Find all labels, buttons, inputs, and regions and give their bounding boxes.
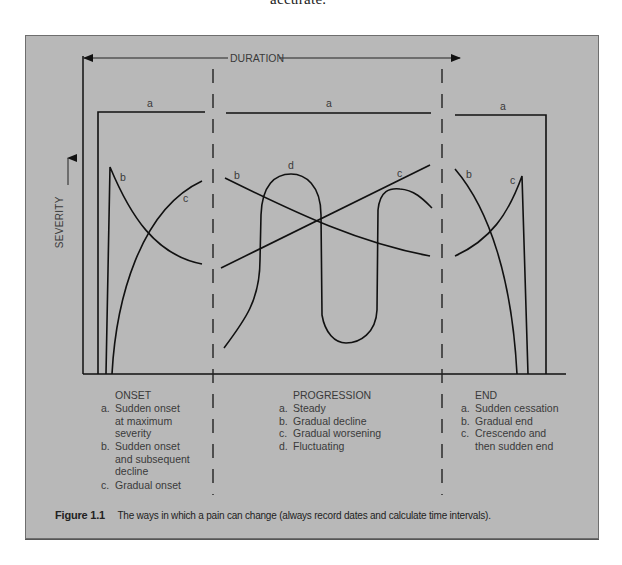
progression-label-b: b (234, 169, 240, 182)
progression-item-d: d. Fluctuating (293, 440, 344, 453)
onset-item-a: a. Sudden onset at maximum severity (115, 402, 180, 440)
caption-text: The ways in which a pain can change (alw… (117, 510, 490, 521)
progression-section-title: PROGRESSION (293, 389, 371, 401)
item-key: a. (461, 402, 470, 415)
severity-label: SEVERITY (54, 196, 67, 248)
progression-item-a: a. Steady (293, 402, 326, 415)
progression-item-b: b. Gradual decline (293, 415, 367, 428)
end-item-b: b. Gradual end (475, 415, 533, 428)
progression-item-c: c. Gradual worsening (293, 427, 381, 440)
progression-label-c: c (397, 167, 402, 180)
item-key: d. (279, 440, 288, 453)
duration-label: DURATION (230, 52, 284, 65)
item-key: c. (461, 427, 469, 440)
item-key: a. (279, 402, 288, 415)
end-section-title: END (475, 389, 497, 401)
item-key: a. (101, 402, 110, 415)
figure-caption: Figure 1.1 The ways in which a pain can … (55, 509, 491, 521)
figure-number: Figure 1.1 (55, 509, 105, 521)
item-key: c. (279, 427, 287, 440)
onset-label-a: a (147, 97, 153, 110)
end-label-b: b (466, 168, 472, 181)
onset-curves (98, 112, 205, 374)
progression-label-d: d (288, 159, 294, 172)
progression-curves (221, 113, 432, 348)
pain-change-diagram (0, 0, 622, 565)
onset-label-b: b (120, 171, 126, 184)
end-label-c: c (510, 174, 515, 187)
item-key: b. (101, 440, 110, 453)
progression-label-a: a (326, 97, 332, 110)
item-key: c. (101, 479, 109, 492)
item-key: b. (279, 415, 288, 428)
onset-section-title: ONSET (115, 389, 151, 401)
onset-item-c: c. Gradual onset (115, 479, 181, 492)
item-key: b. (461, 415, 470, 428)
onset-label-c: c (183, 192, 188, 205)
end-curves (455, 115, 546, 374)
end-item-a: a. Sudden cessation (475, 402, 558, 415)
end-item-c: c. Crescendo and then sudden end (475, 427, 553, 452)
end-label-a: a (500, 100, 506, 113)
onset-item-b: b. Sudden onset and subsequent decline (115, 440, 190, 478)
